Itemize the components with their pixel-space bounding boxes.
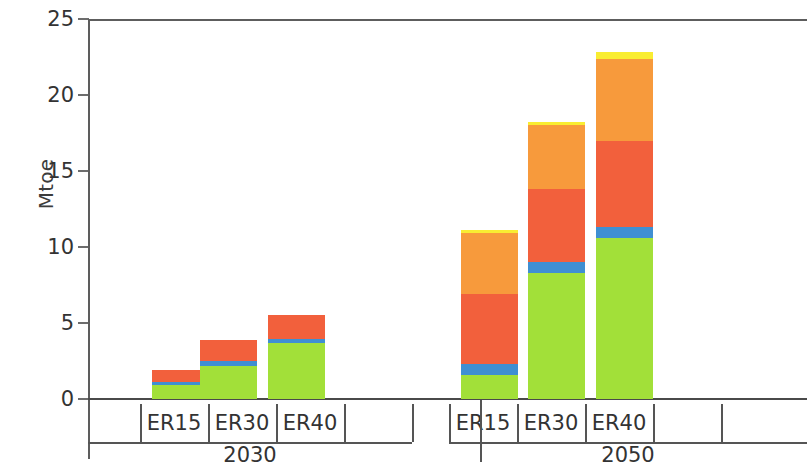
bar-segment-red [528, 189, 585, 262]
y-tick-label: 15 [30, 161, 74, 182]
category-label-er40: ER40 [276, 404, 344, 442]
category-tick [276, 404, 278, 442]
category-label-er40: ER40 [585, 404, 653, 442]
category-tick [585, 404, 587, 442]
y-tick-label: 25 [30, 9, 74, 30]
y-axis-label: Mtoe [34, 124, 58, 244]
category-label-er15: ER15 [140, 404, 208, 442]
category-tick [721, 404, 723, 442]
category-tick [517, 404, 519, 442]
bar-er30-2050 [528, 122, 585, 399]
bar-segment-green [461, 375, 518, 399]
bar-segment-green [200, 366, 257, 399]
category-label-er30: ER30 [517, 404, 585, 442]
bar-segment-blue [596, 227, 653, 238]
bar-segment-red [461, 294, 518, 364]
bar-segment-red [596, 141, 653, 228]
group-label-2030: 2030 [88, 444, 412, 462]
bar-er40-2030 [268, 315, 325, 399]
y-tick-label: 20 [30, 85, 74, 106]
bar-segment-green [528, 273, 585, 399]
category-label-er30: ER30 [208, 404, 276, 442]
category-tick [344, 404, 346, 442]
bar-segment-orange [528, 125, 585, 189]
category-tick [653, 404, 655, 442]
bar-er15-2050 [461, 230, 518, 399]
bar-er30-2030 [200, 340, 257, 399]
category-tick [140, 404, 142, 442]
category-tick [449, 404, 451, 442]
category-label-er15: ER15 [449, 404, 517, 442]
plot-area [88, 19, 807, 399]
category-axis: ER15ER30ER40ER15ER30ER4020302050 [88, 400, 807, 462]
bar-segment-orange [461, 233, 518, 294]
bar-segment-blue [528, 262, 585, 273]
category-tick [412, 404, 414, 442]
bar-segment-blue [461, 364, 518, 375]
bar-segment-green [596, 238, 653, 399]
bar-segment-red [268, 315, 325, 339]
group-divider [480, 400, 482, 462]
y-tick-label: 5 [30, 313, 74, 334]
y-tick-label: 10 [30, 237, 74, 258]
bar-segment-green [268, 343, 325, 399]
bar-er40-2050 [596, 52, 653, 399]
bar-segment-red [200, 340, 257, 361]
y-tick-label: 0 [30, 389, 74, 410]
category-tick [208, 404, 210, 442]
group-label-2050: 2050 [449, 444, 807, 462]
stacked-bar-chart: Mtoe 0510152025 ER15ER30ER40ER15ER30ER40… [0, 0, 807, 462]
bar-segment-orange [596, 59, 653, 141]
